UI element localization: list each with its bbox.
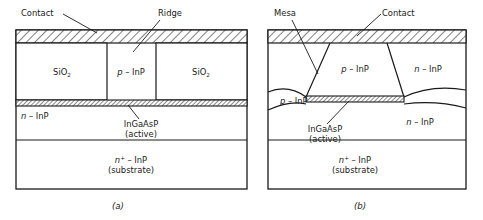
panel-a-active-callout-sublabel: (active) (125, 129, 157, 139)
panel-a-active-callout-label: InGaAsP (124, 119, 159, 129)
panel-b-active-layer (306, 96, 404, 102)
panel-b-p-inp-center-label: p – InP (340, 64, 369, 74)
panel-b-n-inp-upper-right-label: n – InP (414, 64, 442, 74)
panel-b-active-callout-sublabel: (active) (309, 134, 341, 144)
panel-a-active-layer (16, 100, 247, 106)
panel-a-ridge-layer-label: p – InP (116, 67, 145, 77)
panel-b-n-inp-lower-label: n – InP (406, 117, 434, 127)
panel-b-active-callout-label: InGaAsP (308, 124, 343, 134)
panel-a-n-inp-label: n – InP (21, 111, 49, 121)
panel-a-caption: (a) (112, 201, 124, 211)
panel-a-substrate-label: n+ – InP (115, 155, 147, 165)
panel-a-contact-layer (16, 30, 247, 43)
panel-b-p-inp-left-label: p – InP (279, 96, 308, 106)
figure-container: SiO2 SiO2 p – InP n – InP n+ – InP (subs… (0, 0, 483, 220)
panel-b-caption: (b) (354, 201, 366, 211)
panel-a-substrate-sublabel: (substrate) (108, 165, 154, 175)
panel-b-substrate-sublabel: (substrate) (332, 165, 378, 175)
panel-a-ridge-callout-label: Ridge (158, 8, 182, 18)
panel-a-contact-callout-label: Contact (21, 8, 54, 18)
panel-b-mesa-callout-label: Mesa (274, 8, 296, 18)
panel-b-contact-callout-label: Contact (382, 8, 415, 18)
panel-b-substrate-label: n+ – InP (339, 155, 371, 165)
